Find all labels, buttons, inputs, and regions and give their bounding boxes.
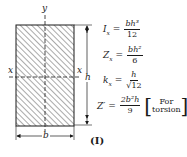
y-axis-label: y <box>42 4 47 13</box>
equation-section-modulus: Zx = bh²6 <box>103 45 145 66</box>
figure-caption: (I) <box>90 135 104 146</box>
x-axis-label-left: x <box>8 66 13 75</box>
equation-radius-of-gyration: kx = h√12 <box>103 70 144 91</box>
equation-torsion-modulus: Z′ = 2b²h9 [ Fortorsion ] <box>97 95 187 116</box>
height-label: h <box>84 73 92 82</box>
torsion-note: [ Fortorsion ] <box>144 97 187 115</box>
width-label: b <box>42 131 50 140</box>
x-axis-label-right: x <box>77 66 82 75</box>
rectangle-section-figure <box>0 0 187 157</box>
equation-moment-of-inertia: Ix = bh³12 <box>103 19 142 40</box>
